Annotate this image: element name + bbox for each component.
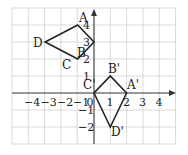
vertex-label-c-prime: C' [83, 78, 95, 92]
x-tick-1: 1 [107, 96, 114, 109]
y-axis-arrow-icon [91, 9, 97, 16]
coordinate-plane: −4 −3 −2 −1 0 1 2 3 4 1 2 3 4 −1 −2 A B … [0, 0, 188, 155]
x-tick-4: 4 [156, 96, 163, 109]
vertex-label-d-prime: D' [111, 125, 124, 139]
x-tick-3: 3 [139, 96, 146, 109]
vertex-label-d: D [33, 36, 43, 50]
y-tick-neg1: −1 [78, 104, 94, 117]
x-tick-neg3: −3 [41, 96, 57, 109]
x-tick-neg4: −4 [24, 96, 40, 109]
y-tick-labels: 1 2 3 4 −1 −2 [78, 19, 94, 134]
x-tick-neg2: −2 [57, 96, 73, 109]
vertex-label-a-prime: A' [126, 78, 139, 92]
vertex-label-b-prime: B' [108, 62, 120, 76]
y-tick-neg2: −2 [78, 121, 94, 134]
x-axis-arrow-icon [169, 90, 176, 96]
vertex-label-a: A [78, 11, 88, 25]
vertex-label-b: B [77, 46, 86, 60]
vertex-label-c: C [62, 58, 71, 72]
